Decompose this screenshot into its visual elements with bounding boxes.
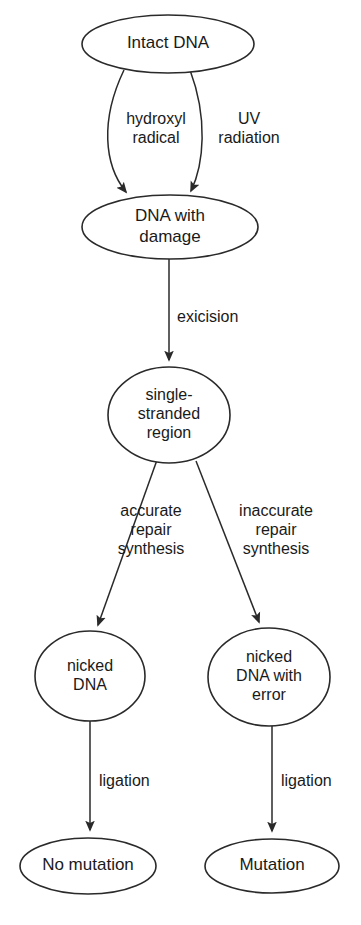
- flowchart-canvas: Intact DNADNA withdamagesingle-strandedr…: [0, 0, 361, 925]
- edge-ligation-left-label-line: ligation: [99, 772, 150, 789]
- node-dna-with-damage-label-line: DNA with: [135, 206, 205, 225]
- edge-excision-label: exicision: [177, 308, 238, 325]
- edge-accurate-repair-synthesis-label-line: repair: [131, 521, 173, 538]
- edge-accurate-repair-synthesis-label-line: synthesis: [118, 540, 185, 557]
- node-nicked-dna-label: nickedDNA: [67, 657, 113, 693]
- node-single-stranded-region-label-line: stranded: [138, 405, 200, 422]
- node-single-stranded-region-label: single-strandedregion: [138, 386, 200, 441]
- node-mutation-label-line: Mutation: [239, 855, 304, 874]
- edge-hydroxyl-radical-label-line: radical: [132, 129, 179, 146]
- edge-hydroxyl-radical-label: hydroxylradical: [126, 110, 186, 146]
- node-no-mutation-label-line: No mutation: [42, 855, 134, 874]
- node-single-stranded-region-label-line: single-: [145, 386, 192, 403]
- edge-inaccurate-repair-synthesis-label: inaccuraterepairsynthesis: [239, 502, 313, 557]
- edge-ligation-left-label: ligation: [99, 772, 150, 789]
- edge-uv-radiation-label-line: radiation: [218, 129, 279, 146]
- node-nicked-dna-with-error-label-line: DNA with: [236, 667, 302, 684]
- node-mutation-label: Mutation: [239, 855, 304, 874]
- dna-repair-flowchart: Intact DNADNA withdamagesingle-strandedr…: [0, 0, 361, 925]
- node-no-mutation-label: No mutation: [42, 855, 134, 874]
- edge-hydroxyl-radical: [108, 70, 126, 192]
- edge-hydroxyl-radical-label-line: hydroxyl: [126, 110, 186, 127]
- node-dna-with-damage-label: DNA withdamage: [135, 206, 205, 245]
- edge-uv-radiation-label: UVradiation: [218, 110, 279, 146]
- edge-inaccurate-repair-synthesis-label-line: inaccurate: [239, 502, 313, 519]
- edge-accurate-repair-synthesis-label-line: accurate: [120, 502, 181, 519]
- edge-ligation-right-label: ligation: [281, 772, 332, 789]
- node-nicked-dna-with-error-label-line: error: [252, 686, 286, 703]
- node-dna-with-damage-label-line: damage: [139, 227, 200, 246]
- edge-ligation-right-label-line: ligation: [281, 772, 332, 789]
- edge-uv-radiation: [190, 70, 202, 191]
- edge-accurate-repair-synthesis-label: accuraterepairsynthesis: [118, 502, 185, 557]
- node-intact-dna-label-line: Intact DNA: [127, 33, 210, 52]
- node-nicked-dna-with-error-label-line: nicked: [246, 648, 292, 665]
- edge-inaccurate-repair-synthesis-label-line: synthesis: [243, 540, 310, 557]
- node-nicked-dna-label-line: nicked: [67, 657, 113, 674]
- node-single-stranded-region-label-line: region: [147, 424, 191, 441]
- edge-uv-radiation-label-line: UV: [238, 110, 261, 127]
- nodes-layer: Intact DNADNA withdamagesingle-strandedr…: [20, 15, 339, 894]
- node-intact-dna-label: Intact DNA: [127, 33, 210, 52]
- edge-excision-label-line: exicision: [177, 308, 238, 325]
- node-nicked-dna-label-line: DNA: [73, 676, 107, 693]
- edge-inaccurate-repair-synthesis-label-line: repair: [256, 521, 298, 538]
